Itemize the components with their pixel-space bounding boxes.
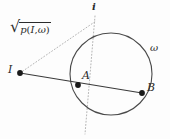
sqrt-power-label: √ p(I,ω)	[10, 22, 51, 35]
label-circle-omega: ω	[150, 43, 158, 53]
radical-sign-icon: √	[10, 21, 20, 33]
label-point-B: B	[147, 82, 155, 93]
point-A-dot	[75, 82, 81, 88]
secant-line-IB	[20, 73, 142, 93]
geometry-figure: √ p(I,ω) I A B ω i	[0, 0, 170, 139]
label-point-A: A	[82, 70, 90, 81]
power-expression: p(I,ω)	[19, 22, 51, 35]
label-line-i: i	[92, 2, 96, 12]
point-I-dot	[17, 70, 23, 76]
power-close-paren: )	[46, 24, 50, 35]
label-point-I: I	[8, 64, 12, 75]
power-argument-circle: ω	[38, 24, 46, 35]
point-B-dot	[139, 90, 145, 96]
